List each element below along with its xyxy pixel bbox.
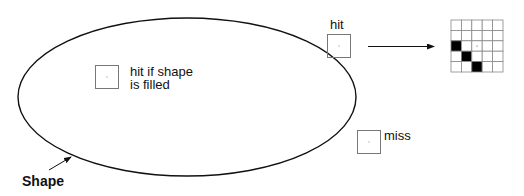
grid-cell bbox=[493, 62, 503, 72]
probe-outside: miss bbox=[358, 128, 412, 154]
grid-cell-filled bbox=[461, 51, 471, 61]
grid-cell bbox=[461, 20, 471, 30]
grid-cell bbox=[461, 41, 471, 51]
grid-cell bbox=[493, 20, 503, 30]
probe-center-dot bbox=[106, 76, 107, 77]
shape-pointer-arrow bbox=[49, 157, 71, 170]
grid-cell bbox=[451, 51, 461, 61]
probe-inside-label-line2: is filled bbox=[130, 77, 170, 92]
grid-cell bbox=[482, 62, 492, 72]
grid-cell bbox=[482, 41, 492, 51]
hit-test-diagram: hit if shape is filled hit miss Shape bbox=[0, 0, 524, 196]
grid-cell bbox=[451, 62, 461, 72]
grid-cell bbox=[461, 30, 471, 40]
grid-cell bbox=[472, 30, 482, 40]
probe-edge-label: hit bbox=[330, 17, 344, 32]
grid-cell bbox=[493, 30, 503, 40]
grid-cell bbox=[461, 62, 471, 72]
probe-center-dot bbox=[368, 141, 369, 142]
grid-cell bbox=[493, 51, 503, 61]
grid-cell-filled bbox=[472, 62, 482, 72]
grid-cell-filled bbox=[451, 41, 461, 51]
shape-ellipse bbox=[18, 18, 356, 176]
shape-label: Shape bbox=[22, 173, 64, 189]
grid-center-dot bbox=[476, 45, 477, 46]
grid-cell bbox=[482, 20, 492, 30]
grid-cell bbox=[451, 30, 461, 40]
probe-edge: hit bbox=[328, 17, 351, 58]
grid-cell bbox=[482, 30, 492, 40]
grid-cell bbox=[472, 20, 482, 30]
pixel-grid bbox=[451, 20, 503, 72]
grid-cell bbox=[493, 41, 503, 51]
probe-inside: hit if shape is filled bbox=[96, 64, 193, 92]
probe-center-dot bbox=[338, 45, 339, 46]
grid-cell bbox=[451, 20, 461, 30]
probe-outside-label: miss bbox=[384, 128, 411, 143]
grid-cell bbox=[482, 51, 492, 61]
grid-cell bbox=[472, 51, 482, 61]
